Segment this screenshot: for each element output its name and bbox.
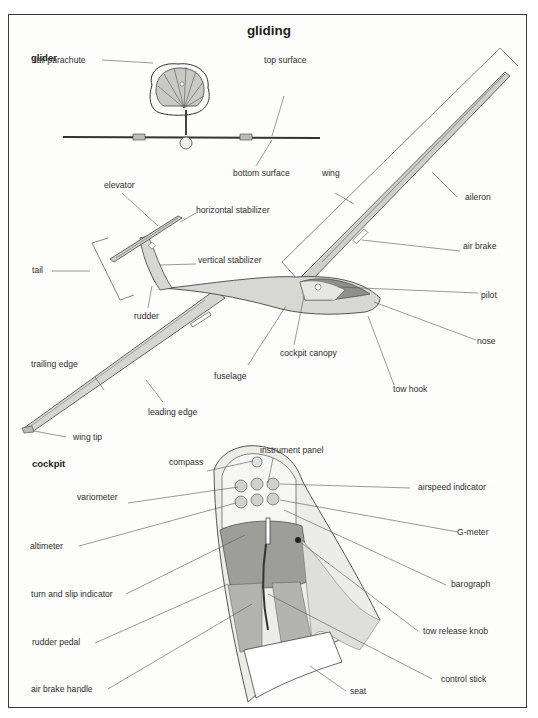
- glider-illustration: [0, 0, 538, 718]
- label-tail: tail: [32, 266, 43, 275]
- label-nose: nose: [477, 337, 496, 346]
- label-bottom-surface: bottom surface: [233, 169, 290, 178]
- label-vertical-stabilizer: vertical stabilizer: [198, 256, 262, 265]
- label-pilot: pilot: [481, 291, 497, 300]
- label-leading-edge: leading edge: [148, 408, 197, 417]
- label-elevator: elevator: [104, 181, 135, 190]
- label-top-surface: top surface: [264, 56, 307, 65]
- label-rudder-pedal: rudder pedal: [32, 638, 80, 647]
- label-wing-tip: wing tip: [73, 433, 102, 442]
- label-tow-hook: tow hook: [393, 385, 427, 394]
- label-tail-parachute: tail parachute: [34, 56, 86, 65]
- label-seat: seat: [350, 687, 366, 696]
- label-trailing-edge: trailing edge: [31, 360, 78, 369]
- front-view-glider: [63, 64, 320, 149]
- label-tow-release-knob: tow release knob: [423, 627, 488, 636]
- label-rudder: rudder: [134, 312, 159, 321]
- perspective-glider: [22, 48, 518, 433]
- label-aileron: aileron: [465, 193, 491, 202]
- page-title: gliding: [0, 23, 538, 38]
- label-turn-and-slip-indicator: turn and slip indicator: [31, 590, 113, 599]
- label-air-brake-handle: air brake handle: [31, 685, 93, 694]
- label-wing: wing: [322, 169, 340, 178]
- label-barograph: barograph: [451, 580, 490, 589]
- label-air-brake: air brake: [463, 242, 496, 251]
- label-instrument-panel: instrument panel: [260, 446, 324, 455]
- section-heading-cockpit: cockpit: [32, 458, 65, 469]
- label-variometer: variometer: [77, 493, 118, 502]
- label-fuselage: fuselage: [214, 372, 247, 381]
- label-altimeter: altimeter: [30, 542, 63, 551]
- label-compass: compass: [169, 458, 203, 467]
- label-cockpit-canopy: cockpit canopy: [280, 349, 337, 358]
- cockpit-illustration: [214, 446, 380, 702]
- label-airspeed-indicator: airspeed indicator: [418, 483, 486, 492]
- label-control-stick: control stick: [441, 675, 486, 684]
- label-g-meter: G-meter: [457, 528, 489, 537]
- label-horizontal-stabilizer: horizontal stabilizer: [196, 206, 270, 215]
